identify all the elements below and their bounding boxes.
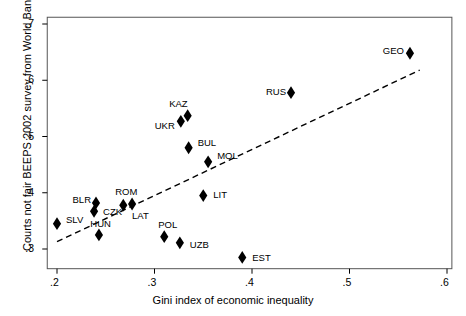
point-label-blr: BLR: [59, 194, 91, 205]
x-tick-label: .5: [343, 276, 352, 288]
point-label-ukr: UKR: [143, 120, 175, 131]
point-label-rus: RUS: [254, 86, 286, 97]
y-tick-label: .4: [25, 186, 34, 198]
y-tick-label: .7: [25, 17, 34, 29]
y-tick-label: .5: [25, 130, 34, 142]
point-label-est: EST: [252, 252, 270, 263]
point-label-rom: ROM: [105, 186, 137, 197]
x-tick-label: .6: [440, 276, 449, 288]
x-tick-label: .3: [148, 276, 157, 288]
scatter-plot-figure: Courts not fair BEEPS 2002 survey from W…: [0, 0, 466, 316]
point-label-czk: CZK: [103, 206, 122, 217]
point-label-kaz: KAZ: [156, 98, 188, 109]
point-label-pol: POL: [145, 219, 177, 230]
y-tick-label: .3: [25, 242, 34, 254]
point-label-bul: BUL: [198, 137, 216, 148]
y-tick-label: .6: [25, 73, 34, 85]
point-label-lit: LIT: [213, 189, 227, 200]
point-label-uzb: UZB: [190, 239, 209, 250]
x-tick-label: .4: [245, 276, 254, 288]
axis-ticks: [42, 24, 447, 274]
point-label-mol: MOL: [217, 150, 238, 161]
point-label-hun: HUN: [79, 218, 111, 229]
point-label-geo: GEO: [372, 45, 404, 56]
x-tick-label: .2: [50, 276, 59, 288]
